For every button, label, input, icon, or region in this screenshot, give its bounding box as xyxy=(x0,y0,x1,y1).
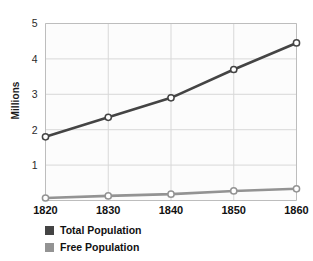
data-point-free-population xyxy=(42,195,48,201)
chart-figure: Millions 12345 18201830184018501860 Tota… xyxy=(0,0,313,261)
data-point-total-population xyxy=(293,40,299,46)
x-tick-label: 1830 xyxy=(96,204,120,216)
y-tick-labels: 12345 xyxy=(32,17,38,171)
y-tick-label: 3 xyxy=(32,88,38,100)
data-point-total-population xyxy=(105,114,111,120)
data-point-total-population xyxy=(42,134,48,140)
y-tick-label: 4 xyxy=(32,53,38,65)
legend-swatch-free-population xyxy=(45,243,54,252)
chart-legend: Total Population Free Population xyxy=(45,222,245,256)
x-tick-labels: 18201830184018501860 xyxy=(33,204,308,216)
legend-label-total-population: Total Population xyxy=(60,225,141,236)
legend-item-total-population: Total Population xyxy=(45,222,245,239)
y-tick-label: 2 xyxy=(32,124,38,136)
data-point-free-population xyxy=(231,188,237,194)
y-tick-label: 1 xyxy=(32,159,38,171)
x-tick-label: 1840 xyxy=(159,204,183,216)
data-point-total-population xyxy=(231,66,237,72)
data-point-free-population xyxy=(293,186,299,192)
x-tick-label: 1860 xyxy=(284,204,308,216)
x-tick-label: 1850 xyxy=(222,204,246,216)
x-tick-label: 1820 xyxy=(33,204,57,216)
data-point-free-population xyxy=(105,193,111,199)
legend-swatch-total-population xyxy=(45,226,54,235)
legend-item-free-population: Free Population xyxy=(45,239,245,256)
data-point-total-population xyxy=(168,95,174,101)
y-tick-label: 5 xyxy=(32,17,38,29)
legend-label-free-population: Free Population xyxy=(60,242,139,253)
data-point-free-population xyxy=(168,191,174,197)
